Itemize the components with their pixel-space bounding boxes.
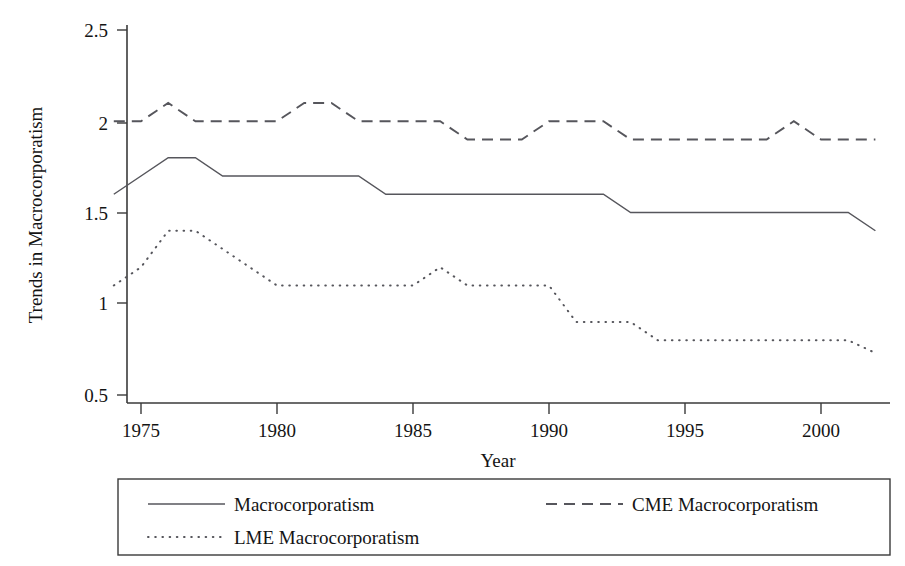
series-group	[114, 103, 876, 353]
legend-label-lme-macrocorporatism: LME Macrocorporatism	[234, 527, 419, 548]
x-tick-label: 1980	[258, 420, 296, 441]
x-tick-label: 2000	[802, 420, 840, 441]
y-tick-label: 0.5	[84, 385, 108, 406]
series-line-lme-macrocorporatism	[114, 231, 876, 353]
y-tick-label: 1	[99, 293, 109, 314]
x-axis-title: Year	[480, 450, 516, 471]
macrocorporatism-trends-figure: Trends in Macrocorporatism 2.5 2 1.5 1 0…	[0, 0, 905, 566]
legend: Macrocorporatism CME Macrocorporatism LM…	[118, 479, 890, 555]
x-tick-labels: 1975 1980 1985 1990 1995 2000	[122, 420, 840, 441]
series-line-cme-macrocorporatism	[114, 103, 876, 140]
y-tick-label: 2	[99, 113, 109, 134]
x-tick-label: 1995	[666, 420, 704, 441]
x-tick-label: 1975	[122, 420, 160, 441]
y-tick-label: 1.5	[84, 203, 108, 224]
chart-canvas: Trends in Macrocorporatism 2.5 2 1.5 1 0…	[0, 0, 905, 566]
y-tick-labels: 2.5 2 1.5 1 0.5	[84, 20, 108, 406]
legend-label-cme-macrocorporatism: CME Macrocorporatism	[632, 494, 818, 515]
x-tick-label: 1990	[530, 420, 568, 441]
y-axis-title: Trends in Macrocorporatism	[25, 106, 46, 323]
y-tick-label: 2.5	[84, 20, 108, 41]
y-axis	[117, 25, 127, 403]
series-line-macrocorporatism	[114, 158, 876, 231]
x-axis	[127, 403, 890, 414]
legend-label-macrocorporatism: Macrocorporatism	[234, 494, 375, 515]
x-tick-label: 1985	[394, 420, 432, 441]
